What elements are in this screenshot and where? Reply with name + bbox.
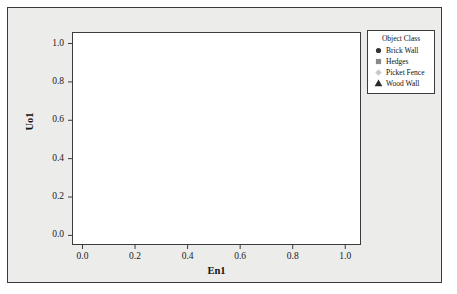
legend-item[interactable]: Picket Fence	[372, 67, 430, 78]
legend-items: Brick WallHedgesPicket FenceWood Wall	[372, 45, 430, 89]
x-axis-label: En1	[72, 265, 361, 276]
x-tick-label: 0.2	[120, 251, 150, 261]
y-axis-label: Uo1	[24, 92, 35, 152]
y-tick-label: 0.4	[34, 153, 64, 163]
diamond-marker-icon	[372, 67, 385, 78]
legend-item-label: Picket Fence	[385, 68, 425, 77]
plot-area	[72, 32, 361, 245]
legend-title: Object Class	[372, 34, 430, 43]
legend: Object Class Brick WallHedgesPicket Fenc…	[367, 30, 435, 94]
y-tick-label: 0.6	[34, 114, 64, 124]
x-tick-label: 0.4	[173, 251, 203, 261]
x-tick-label: 0.8	[278, 251, 308, 261]
circle-marker-icon	[372, 45, 385, 56]
y-tick-label: 1.0	[34, 38, 64, 48]
legend-item-label: Hedges	[385, 57, 409, 66]
legend-item-label: Wood Wall	[385, 79, 419, 88]
y-tick-label: 0.0	[34, 229, 64, 239]
triangle-marker-icon	[372, 78, 385, 89]
figure-frame: 0.00.20.40.60.81.0 0.00.20.40.60.81.0 Uo…	[7, 7, 442, 283]
legend-item-label: Brick Wall	[385, 46, 418, 55]
square-marker-icon	[372, 56, 385, 67]
x-tick-label: 0.0	[68, 251, 98, 261]
y-tick-label: 0.2	[34, 191, 64, 201]
legend-item[interactable]: Brick Wall	[372, 45, 430, 56]
y-tick-label: 0.8	[34, 76, 64, 86]
x-tick-label: 0.6	[225, 251, 255, 261]
legend-item[interactable]: Hedges	[372, 56, 430, 67]
x-tick-label: 1.0	[330, 251, 360, 261]
legend-item[interactable]: Wood Wall	[372, 78, 430, 89]
